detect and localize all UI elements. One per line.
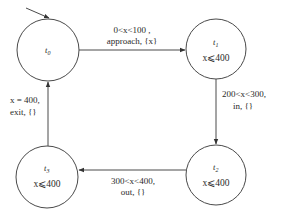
transition-t1-t2-guard: 200<x<300, bbox=[222, 89, 266, 99]
transition-t1-t2-action: in, {} bbox=[233, 101, 253, 111]
timed-automaton-diagram: t0 t1 x⩽400 t2 x⩽400 t3 x⩽400 0<x<100 , … bbox=[0, 0, 282, 209]
transition-t2-t3: 300<x<400, out, {} bbox=[79, 170, 186, 197]
state-t2-circle bbox=[186, 145, 246, 205]
transition-t2-t3-guard: 300<x<400, bbox=[111, 176, 155, 186]
state-t1-invariant: x⩽400 bbox=[203, 53, 230, 63]
state-t2: t2 x⩽400 bbox=[186, 145, 246, 205]
transition-t3-t0-guard: x = 400, bbox=[10, 95, 40, 105]
state-t2-invariant: x⩽400 bbox=[203, 178, 230, 188]
state-t1: t1 x⩽400 bbox=[186, 19, 246, 79]
state-t2-label: t2 bbox=[213, 162, 218, 173]
state-t3-invariant: x⩽400 bbox=[34, 179, 61, 189]
initial-state-arrow bbox=[26, 8, 49, 18]
transition-t3-t0-action: exit, {} bbox=[10, 107, 37, 117]
state-t0: t0 bbox=[17, 19, 79, 81]
transition-t2-t3-action: out, {} bbox=[121, 187, 146, 197]
transition-t0-t1: 0<x<100 , approach, {x} bbox=[79, 25, 185, 50]
state-t0-label: t0 bbox=[45, 45, 50, 56]
state-t3: t3 x⩽400 bbox=[16, 146, 78, 208]
state-t1-label: t1 bbox=[213, 37, 218, 48]
transition-t0-t1-action: approach, {x} bbox=[107, 36, 158, 46]
transition-t3-t0: x = 400, exit, {} bbox=[10, 82, 48, 146]
transition-t0-t1-guard: 0<x<100 , bbox=[113, 25, 150, 35]
transition-t1-t2: 200<x<300, in, {} bbox=[216, 79, 266, 144]
state-t3-label: t3 bbox=[44, 163, 49, 174]
state-t1-circle bbox=[186, 19, 246, 79]
state-t3-circle bbox=[16, 146, 78, 208]
